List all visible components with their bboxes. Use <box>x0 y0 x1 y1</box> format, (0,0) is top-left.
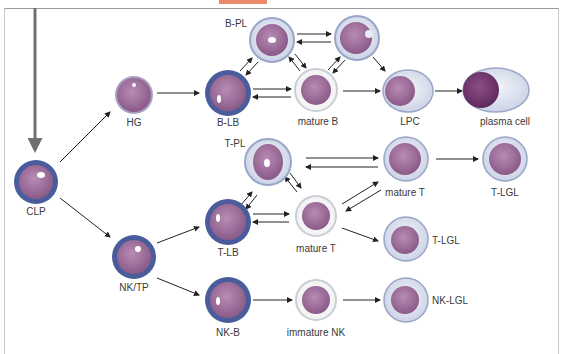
cell-t-lgl-upper <box>483 137 527 181</box>
cell-t-pl <box>245 139 291 185</box>
cell-nk-lgl <box>384 278 428 322</box>
cell-b-pl <box>250 18 294 62</box>
cell-t-lb <box>205 199 251 245</box>
label-nk-lgl: NK-LGL <box>432 295 468 306</box>
cell-mature-t-mid <box>296 196 336 236</box>
label-immature-nk: immature NK <box>287 327 345 338</box>
cell-mature-b <box>295 69 337 111</box>
label-mature-t-upper: mature T <box>385 187 425 198</box>
cell-mature-t-upper <box>384 137 428 181</box>
cell-clp <box>14 160 58 204</box>
label-mature-b: mature B <box>298 116 339 127</box>
cell-plasma <box>463 68 529 112</box>
label-nktp: NK/TP <box>119 282 148 293</box>
cell-b-unlabeled <box>335 16 379 60</box>
label-plasma-cell: plasma cell <box>480 116 530 127</box>
label-lpc: LPC <box>400 116 419 127</box>
label-t-lb: T-LB <box>217 247 238 258</box>
cell-immature-nk <box>296 280 336 320</box>
cell-b-lb <box>205 70 251 116</box>
cell-hg <box>115 76 153 114</box>
label-t-lgl-upper: T-LGL <box>491 187 519 198</box>
label-mature-t-mid: mature T <box>296 243 336 254</box>
label-t-lgl-mid: T-LGL <box>432 235 460 246</box>
label-b-pl: B-PL <box>225 18 247 29</box>
cell-nk-b <box>205 277 251 323</box>
label-b-lb: B-LB <box>217 117 239 128</box>
cell-lpc <box>383 70 433 112</box>
label-t-pl: T-PL <box>224 138 245 149</box>
label-hg: HG <box>127 117 142 128</box>
label-clp: CLP <box>26 206 45 217</box>
cell-t-lgl-mid <box>384 217 428 261</box>
label-nk-b: NK-B <box>216 327 240 338</box>
cell-nktp <box>112 235 156 279</box>
